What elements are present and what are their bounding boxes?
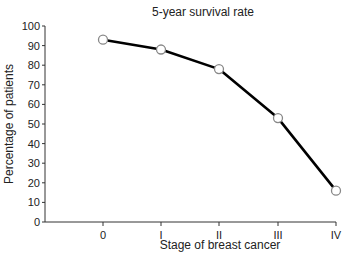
y-tick-label: 90 <box>28 40 40 52</box>
data-point <box>274 114 283 123</box>
data-point <box>99 35 108 44</box>
y-axis-label: Percentage of patients <box>2 64 16 184</box>
data-series <box>99 35 341 195</box>
y-tick-label: 50 <box>28 118 40 130</box>
y-tick-label: 70 <box>28 79 40 91</box>
y-tick-label: 60 <box>28 98 40 110</box>
x-tick-label: 0 <box>100 229 106 241</box>
data-point <box>332 186 341 195</box>
y-tick-label: 100 <box>22 20 40 32</box>
x-axis-label: Stage of breast cancer <box>160 238 281 252</box>
y-tick-label: 30 <box>28 157 40 169</box>
x-tick-label: IV <box>331 229 342 241</box>
y-axis: 0102030405060708090100 <box>22 20 45 228</box>
line-chart: 5-year survival rate 0102030405060708090… <box>0 0 346 257</box>
y-tick-label: 10 <box>28 196 40 208</box>
y-tick-label: 40 <box>28 138 40 150</box>
y-tick-label: 0 <box>34 216 40 228</box>
data-point <box>157 45 166 54</box>
y-tick-label: 20 <box>28 177 40 189</box>
data-point <box>215 65 224 74</box>
y-tick-label: 80 <box>28 59 40 71</box>
chart-title: 5-year survival rate <box>152 5 254 19</box>
